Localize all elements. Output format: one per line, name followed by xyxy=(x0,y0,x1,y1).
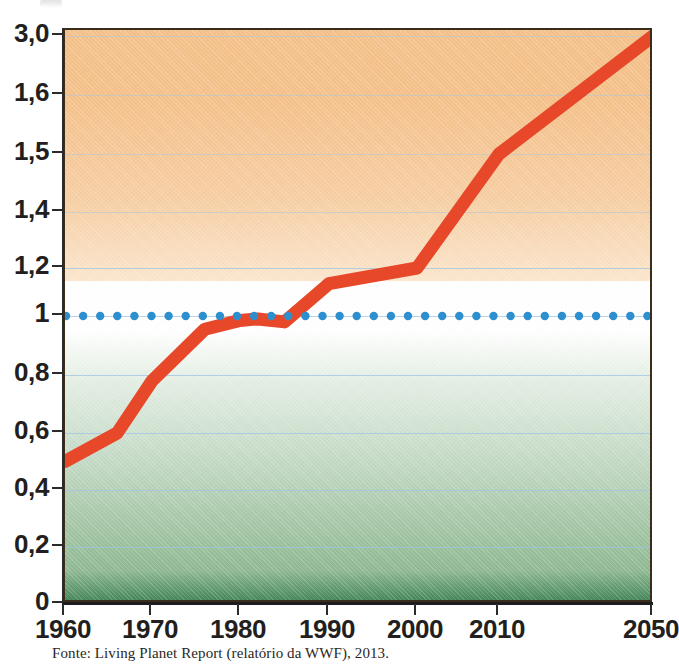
y-tick-label: 1,4 xyxy=(14,196,49,222)
reference-dot xyxy=(387,312,395,320)
reference-dot xyxy=(147,312,155,320)
reference-dot xyxy=(113,312,121,320)
y-axis-line xyxy=(62,28,64,604)
reference-dot xyxy=(506,312,514,320)
y-tick-label: 3,0 xyxy=(14,20,49,46)
y-tick-0-2 xyxy=(52,544,63,546)
reference-line-biocapacity xyxy=(63,312,652,320)
y-tick-1-5 xyxy=(52,151,63,153)
y-tick-label: 1,5 xyxy=(14,138,49,164)
reference-dot xyxy=(233,312,241,320)
y-tick-label: 0,8 xyxy=(14,359,49,385)
reference-dot xyxy=(370,312,378,320)
series-layer xyxy=(65,30,652,602)
y-tick-label: 1,6 xyxy=(14,79,49,105)
reference-dot xyxy=(199,312,207,320)
reference-dot xyxy=(216,312,224,320)
reference-dot xyxy=(592,312,600,320)
y-tick-3-0 xyxy=(52,33,63,35)
y-tick-label: 0,2 xyxy=(14,531,49,557)
source-caption: Fonte: Living Planet Report (relatório d… xyxy=(52,645,389,662)
y-tick-label: 1 xyxy=(34,300,49,327)
reference-dot xyxy=(284,312,292,320)
reference-dot xyxy=(643,312,651,320)
cropped-title-artifact xyxy=(40,0,62,8)
y-tick-label: 0 xyxy=(35,588,49,614)
y-tick-0-4 xyxy=(52,487,63,489)
plot-area xyxy=(63,28,652,602)
reference-dot xyxy=(558,312,566,320)
reference-dot xyxy=(335,312,343,320)
reference-dot xyxy=(79,312,87,320)
y-tick-label: 0,4 xyxy=(14,474,49,500)
y-tick-1 xyxy=(52,313,63,315)
y-tick-0-8 xyxy=(52,372,63,374)
reference-dot xyxy=(404,312,412,320)
reference-dot xyxy=(524,312,532,320)
trend-line-ecological-footprint xyxy=(65,36,652,462)
reference-dot xyxy=(96,312,104,320)
reference-dot xyxy=(63,312,70,320)
reference-dot xyxy=(609,312,617,320)
x-tick-label: 1960 xyxy=(35,616,91,642)
reference-dot xyxy=(489,312,497,320)
reference-dot xyxy=(438,312,446,320)
y-tick-label: 1,2 xyxy=(14,252,49,278)
reference-dot xyxy=(575,312,583,320)
reference-dot xyxy=(353,312,361,320)
x-tick-label: 1980 xyxy=(210,616,266,642)
reference-dot xyxy=(130,312,138,320)
y-tick-1-2 xyxy=(52,265,63,267)
y-tick-label: 0,6 xyxy=(14,417,49,443)
y-tick-1-4 xyxy=(52,209,63,211)
y-tick-0-6 xyxy=(52,430,63,432)
x-tick-label: 2000 xyxy=(387,616,443,642)
reference-dot xyxy=(250,312,258,320)
x-tick-label: 2010 xyxy=(469,616,525,642)
x-tick-label: 1990 xyxy=(299,616,355,642)
x-tick-label: 1970 xyxy=(122,616,178,642)
reference-dot xyxy=(455,312,463,320)
y-tick-0 xyxy=(52,601,63,603)
reference-dot xyxy=(301,312,309,320)
reference-dot xyxy=(626,312,634,320)
reference-dot xyxy=(318,312,326,320)
reference-dot xyxy=(267,312,275,320)
reference-dot xyxy=(472,312,480,320)
reference-dot xyxy=(421,312,429,320)
y-tick-1-6 xyxy=(52,92,63,94)
x-tick-label: 2050 xyxy=(623,616,679,642)
reference-dot xyxy=(164,312,172,320)
reference-dot xyxy=(182,312,190,320)
reference-dot xyxy=(541,312,549,320)
